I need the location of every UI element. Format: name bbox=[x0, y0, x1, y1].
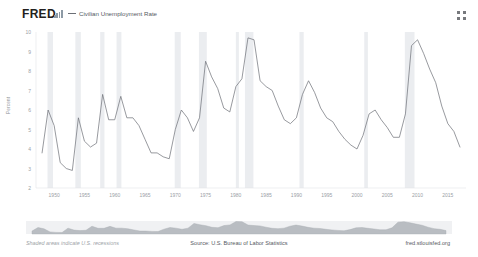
recession-band bbox=[236, 32, 239, 188]
fred-url[interactable]: fred.stlouisfed.org bbox=[406, 240, 450, 246]
y-tick-label: 6 bbox=[28, 107, 31, 113]
x-tick-label: 1980 bbox=[230, 192, 241, 198]
x-tick-label: 2005 bbox=[382, 192, 393, 198]
x-tick-label: 1975 bbox=[200, 192, 211, 198]
recession-band bbox=[245, 32, 253, 188]
bar-chart-icon bbox=[54, 10, 63, 18]
recession-band bbox=[175, 32, 181, 188]
x-tick-label: 1990 bbox=[291, 192, 302, 198]
y-tick-label: 2 bbox=[28, 185, 31, 191]
plot-area: Percent 23456789101950195519601965197019… bbox=[0, 26, 478, 212]
four-dot-grid-icon[interactable] bbox=[457, 11, 466, 20]
y-tick-label: 5 bbox=[28, 127, 31, 133]
x-tick-label: 1985 bbox=[261, 192, 272, 198]
fred-chart-widget: FRED Civilian Unemployment Rate Percent … bbox=[0, 0, 478, 257]
unemployment-line-chart[interactable]: 2345678910195019551960196519701975198019… bbox=[0, 26, 478, 212]
chart-navigator[interactable] bbox=[0, 218, 478, 238]
x-tick-label: 2015 bbox=[442, 192, 453, 198]
navigator-area-chart[interactable] bbox=[0, 218, 478, 238]
x-tick-label: 2000 bbox=[351, 192, 362, 198]
x-tick-label: 1965 bbox=[139, 192, 150, 198]
y-tick-label: 7 bbox=[28, 88, 31, 94]
y-tick-label: 4 bbox=[28, 146, 31, 152]
x-tick-label: 1960 bbox=[109, 192, 120, 198]
x-tick-label: 1995 bbox=[321, 192, 332, 198]
x-tick-label: 1950 bbox=[49, 192, 60, 198]
recession-band bbox=[75, 32, 80, 188]
recession-band bbox=[405, 32, 415, 188]
legend-label: Civilian Unemployment Rate bbox=[79, 10, 157, 17]
recession-band bbox=[364, 32, 368, 188]
x-tick-label: 1970 bbox=[170, 192, 181, 198]
y-tick-label: 3 bbox=[28, 166, 31, 172]
y-tick-label: 9 bbox=[28, 49, 31, 55]
chart-header: FRED Civilian Unemployment Rate bbox=[0, 0, 478, 26]
y-tick-label: 8 bbox=[28, 68, 31, 74]
y-tick-label: 10 bbox=[25, 29, 31, 35]
chart-footer: Shaded areas indicate U.S. recessions So… bbox=[0, 238, 478, 257]
chart-legend[interactable]: Civilian Unemployment Rate bbox=[68, 8, 157, 18]
fred-logo[interactable]: FRED bbox=[22, 8, 56, 20]
x-tick-label: 2010 bbox=[412, 192, 423, 198]
x-tick-label: 1955 bbox=[79, 192, 90, 198]
recession-band bbox=[299, 32, 303, 188]
legend-swatch bbox=[68, 13, 76, 14]
